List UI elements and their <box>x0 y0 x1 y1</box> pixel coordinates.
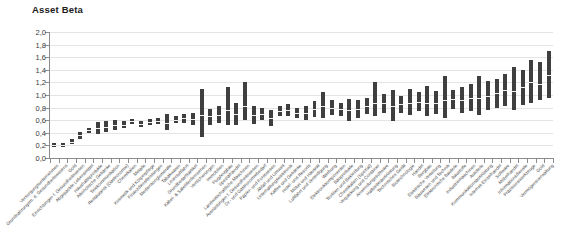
y-tick-label-1,4: 1,4 <box>20 66 46 75</box>
median-marker <box>61 145 65 146</box>
range-bar <box>321 92 325 118</box>
y-tick-label-2,0: 2,0 <box>20 28 46 37</box>
median-marker <box>313 109 317 110</box>
median-marker <box>113 125 117 126</box>
range-bar <box>529 60 533 103</box>
median-marker <box>96 128 100 129</box>
median-marker <box>70 142 74 143</box>
median-marker <box>339 109 343 110</box>
y-tick-label-0,0: 0,0 <box>20 154 46 163</box>
median-marker <box>399 104 403 105</box>
median-marker <box>260 114 264 115</box>
median-marker <box>174 120 178 121</box>
y-tick-label-0,4: 0,4 <box>20 129 46 138</box>
median-marker <box>495 93 499 94</box>
y-tick-label-0,2: 0,2 <box>20 141 46 150</box>
median-marker <box>460 100 464 101</box>
median-marker <box>469 98 473 99</box>
median-marker <box>547 75 551 76</box>
median-marker <box>182 118 186 119</box>
median-marker <box>139 124 143 125</box>
median-marker <box>451 99 455 100</box>
median-marker <box>521 87 525 88</box>
median-marker <box>278 111 282 112</box>
x-axis-category-labels: VersorgungsunternehmenGrundnahrungsm. d.… <box>50 163 554 247</box>
median-marker <box>443 100 447 101</box>
y-tick-label-0,6: 0,6 <box>20 116 46 125</box>
median-marker <box>391 106 395 107</box>
range-bar <box>373 82 377 116</box>
median-marker <box>304 113 308 114</box>
median-marker <box>347 110 351 111</box>
range-bar <box>443 76 447 118</box>
median-marker <box>321 106 325 107</box>
median-marker <box>122 125 126 126</box>
median-marker <box>243 106 247 107</box>
median-marker <box>486 96 490 97</box>
median-marker <box>286 110 290 111</box>
range-bar <box>243 82 247 120</box>
chart-title: Asset Beta <box>32 4 83 15</box>
plot-bars <box>50 32 553 158</box>
median-marker <box>330 108 334 109</box>
median-marker <box>234 114 238 115</box>
median-marker <box>252 115 256 116</box>
median-marker <box>356 109 360 110</box>
y-tick-label-0,8: 0,8 <box>20 104 46 113</box>
median-marker <box>382 103 386 104</box>
y-tick-label-1,6: 1,6 <box>20 53 46 62</box>
median-marker <box>434 103 438 104</box>
median-marker <box>226 110 230 111</box>
y-tick-label-1,2: 1,2 <box>20 78 46 87</box>
median-marker <box>365 106 369 107</box>
range-bar <box>425 86 429 116</box>
median-marker <box>165 123 169 124</box>
median-marker <box>408 103 412 104</box>
median-marker <box>156 121 160 122</box>
median-marker <box>217 115 221 116</box>
median-marker <box>52 145 56 146</box>
range-bar <box>477 76 481 115</box>
median-marker <box>373 103 377 104</box>
median-marker <box>503 90 507 91</box>
range-bar <box>512 67 516 110</box>
median-marker <box>200 115 204 116</box>
median-marker <box>425 103 429 104</box>
range-bar <box>200 89 204 136</box>
median-marker <box>538 84 542 85</box>
median-marker <box>529 82 533 83</box>
median-marker <box>87 130 91 131</box>
range-bar <box>538 62 542 100</box>
y-tick-label-1,0: 1,0 <box>20 91 46 100</box>
median-marker <box>130 121 134 122</box>
median-marker <box>477 98 481 99</box>
median-marker <box>104 127 108 128</box>
asset-beta-chart: Asset Beta 2,01,81,61,41,21,00,80,60,40,… <box>0 0 564 247</box>
median-marker <box>208 116 212 117</box>
median-marker <box>295 113 299 114</box>
median-marker <box>191 119 195 120</box>
median-marker <box>417 102 421 103</box>
median-marker <box>269 118 273 119</box>
median-marker <box>148 122 152 123</box>
range-bar <box>226 87 230 125</box>
median-marker <box>512 91 516 92</box>
y-tick-label-1,8: 1,8 <box>20 41 46 50</box>
median-marker <box>78 135 82 136</box>
